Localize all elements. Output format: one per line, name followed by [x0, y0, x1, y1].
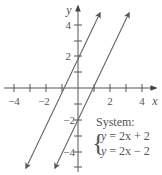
- x-tick-label-4: 4: [139, 95, 145, 107]
- x-tick-label-neg2: −2: [38, 95, 50, 107]
- y-tick-label-2: 2: [66, 50, 72, 62]
- graph: −4 −2 2 4 x y 4 2 −2 −4 System: {: [0, 0, 162, 175]
- system-annotation: System: { y = 2x + 2 y = 2x − 2: [92, 115, 150, 158]
- y-axis-label: y: [65, 3, 72, 17]
- line-y-eq-2x-plus-2: [26, 13, 100, 168]
- system-heading: System:: [96, 115, 135, 129]
- y-tick-label-neg2: −2: [63, 114, 75, 126]
- y-tick-label-4: 4: [66, 19, 72, 31]
- x-tick-label-neg4: −4: [8, 95, 20, 107]
- x-axis-label: x: [151, 94, 158, 108]
- equation-2: y = 2x − 2: [100, 144, 150, 158]
- x-tick-label-2: 2: [107, 95, 113, 107]
- equation-1: y = 2x + 2: [100, 129, 150, 143]
